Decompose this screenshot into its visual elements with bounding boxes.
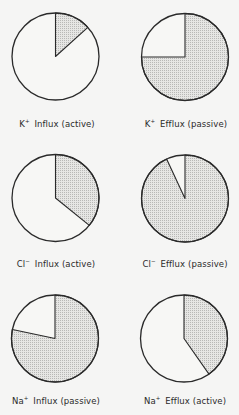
ion-charge: − (151, 258, 156, 264)
ion-symbol: Cl (17, 259, 26, 269)
flux-description: Influx (passive) (33, 396, 100, 406)
pie-label: K+ Influx (active) (19, 118, 95, 129)
ion-symbol: K (145, 119, 151, 129)
ion-flux-pie-figure (0, 0, 239, 415)
pie-label: Cl− Efflux (passive) (142, 258, 227, 269)
ion-symbol: Cl (142, 259, 151, 269)
pie-label: Cl− Influx (active) (17, 258, 95, 269)
pie-chart-1 (12, 13, 99, 100)
ion-charge: + (151, 118, 156, 124)
ion-symbol: K (19, 119, 25, 129)
pie-label: K+ Efflux (passive) (145, 118, 227, 129)
pie-chart-2 (142, 14, 229, 101)
flux-description: Influx (active) (35, 259, 95, 269)
ion-charge: + (25, 118, 30, 124)
ion-charge: + (24, 395, 29, 401)
ion-symbol: Na (12, 396, 24, 406)
flux-description: Efflux (passive) (160, 259, 227, 269)
pie-label: Na+ Influx (passive) (12, 395, 100, 406)
ion-charge: + (156, 395, 161, 401)
flux-description: Efflux (passive) (160, 119, 227, 129)
pie-chart-3 (12, 155, 99, 242)
flux-description: Efflux (active) (165, 396, 226, 406)
pie-chart-4 (142, 155, 229, 242)
ion-charge: − (25, 258, 30, 264)
ion-symbol: Na (144, 396, 156, 406)
flux-description: Influx (active) (34, 119, 94, 129)
pie-label: Na+ Efflux (active) (144, 395, 226, 406)
pie-chart-6 (141, 295, 228, 382)
pie-chart-5 (12, 295, 99, 382)
